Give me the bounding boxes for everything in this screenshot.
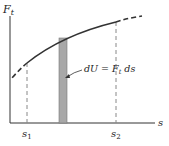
- x-axis-label: s: [158, 117, 163, 128]
- force-curve: [27, 22, 116, 63]
- s2-label: s2: [111, 128, 121, 141]
- curve-extension-right: [116, 16, 142, 22]
- curve-extension-left: [11, 63, 27, 79]
- s1-label: s1: [22, 128, 32, 141]
- strip-label: dU = Ft ds: [84, 63, 135, 76]
- work-diagram: Ft s s1 s2 dU = Ft ds: [0, 0, 169, 146]
- y-axis-label: Ft: [2, 3, 15, 17]
- strip-du: [59, 38, 67, 123]
